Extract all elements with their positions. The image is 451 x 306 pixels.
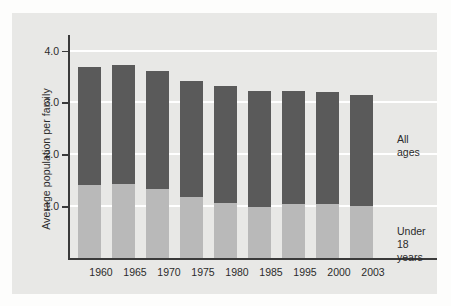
bar-segment-under-18 — [146, 189, 169, 258]
legend-label-line: Under — [397, 225, 426, 238]
y-axis-line — [68, 35, 70, 258]
legend-label-all-ages: Allages — [397, 133, 420, 159]
y-tick-label: 1.0 — [44, 200, 59, 212]
x-axis-line — [68, 258, 437, 260]
y-tick-mark — [62, 206, 68, 208]
bar-segment-under-18 — [180, 197, 203, 258]
gridline — [70, 50, 437, 52]
bar-segment-under-18 — [282, 204, 305, 258]
chart-panel: Average population per family 4.03.02.01… — [12, 13, 437, 294]
x-tick-label: 2003 — [348, 266, 398, 278]
bar-segment-under-18 — [316, 204, 339, 258]
legend-label-line: ages — [397, 146, 420, 159]
y-tick-mark — [62, 102, 68, 104]
figure: Average population per family 4.03.02.01… — [0, 0, 451, 306]
plot-area: 4.03.02.01.0 196019651970197519801985199… — [68, 35, 437, 258]
y-tick-label: 3.0 — [44, 96, 59, 108]
legend-label-line: All — [397, 133, 420, 146]
y-tick-mark — [62, 154, 68, 156]
bar-segment-under-18 — [248, 207, 271, 258]
legend-label-line: years — [397, 251, 426, 264]
legend-label-under-18-years: Under18years — [397, 225, 426, 264]
bar-segment-under-18 — [350, 206, 373, 258]
bar-segment-under-18 — [112, 184, 135, 258]
bar-segment-under-18 — [214, 203, 237, 258]
y-tick-label: 4.0 — [44, 45, 59, 57]
bar-segment-under-18 — [78, 185, 101, 258]
y-tick-mark — [62, 51, 68, 53]
y-tick-label: 2.0 — [44, 148, 59, 160]
legend-label-line: 18 — [397, 238, 426, 251]
